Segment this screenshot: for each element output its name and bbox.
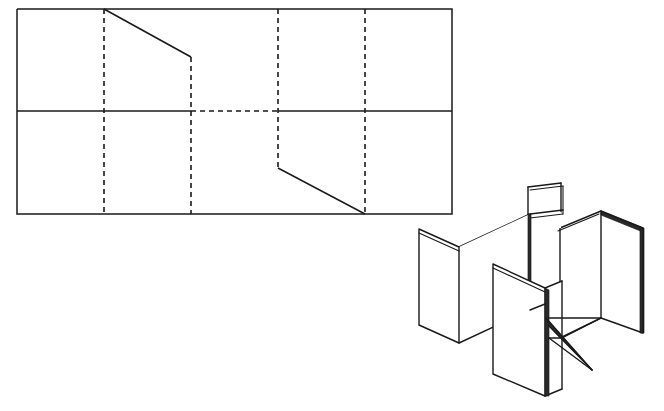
lower-diagonal-cut — [278, 168, 365, 214]
technical-drawing-canvas — [0, 0, 664, 411]
upper-diagonal-cut — [104, 9, 191, 57]
flat-development-pattern — [17, 9, 452, 214]
right-return-face — [560, 211, 601, 338]
figure-root — [0, 0, 664, 411]
isometric-assembled-model — [419, 183, 644, 396]
left-wing-face — [419, 229, 459, 343]
